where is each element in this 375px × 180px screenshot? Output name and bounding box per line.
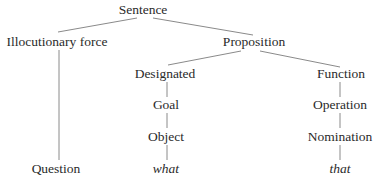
tree-edges	[0, 0, 375, 180]
node-goal: Goal	[153, 98, 179, 112]
node-that: that	[329, 162, 350, 176]
node-question: Question	[32, 162, 81, 176]
node-designated: Designated	[135, 67, 196, 81]
tree-diagram: SentenceIllocutionary forcePropositionDe…	[0, 0, 375, 180]
edge-proposition-to-function	[260, 51, 340, 67]
edge-sentence-to-illocutionary-force	[58, 18, 137, 32]
node-operation: Operation	[313, 98, 367, 112]
node-sentence: Sentence	[119, 3, 168, 17]
edge-sentence-to-proposition	[153, 18, 253, 35]
node-proposition: Proposition	[223, 35, 285, 49]
node-nomination: Nomination	[308, 130, 373, 144]
node-illocutionary-force: Illocutionary force	[7, 35, 108, 49]
node-function: Function	[317, 67, 365, 81]
node-what: what	[153, 162, 179, 176]
node-object: Object	[148, 130, 184, 144]
edge-proposition-to-designated	[168, 51, 241, 65]
